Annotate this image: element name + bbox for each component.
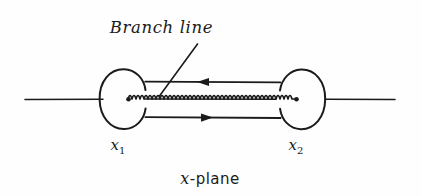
x1-subscript: 1	[119, 145, 125, 156]
branch-line-leader	[160, 44, 198, 96]
complex-plane-diagram: Branch line x1 x2 x-plane	[0, 0, 421, 196]
caption-variable: x	[180, 169, 190, 188]
figure-container: Branch line x1 x2 x-plane	[0, 0, 421, 196]
branch-point-x1-label: x1	[111, 136, 126, 156]
left-bulb-circle	[100, 69, 146, 129]
branch-line-annotation: Branch line	[109, 18, 213, 37]
upper-contour-path	[145, 82, 280, 83]
lower-contour-arrowhead-right	[201, 114, 213, 122]
branch-point-x2-label: x2	[289, 136, 304, 156]
caption-suffix: -plane	[190, 170, 240, 188]
x2-subscript: 2	[297, 145, 303, 156]
right-bulb-circle	[280, 70, 325, 130]
upper-contour-arrowhead-left	[197, 78, 209, 86]
figure-caption: x-plane	[180, 169, 240, 188]
branch-point-x1-dot	[126, 97, 131, 102]
branch-point-x2-dot	[294, 97, 299, 102]
